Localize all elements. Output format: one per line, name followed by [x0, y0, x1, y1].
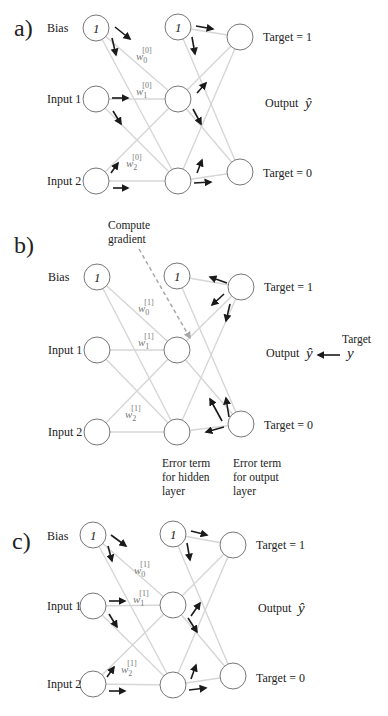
edge-input-hidden — [97, 277, 177, 350]
hidden-node-1 — [160, 592, 186, 618]
bias-unit-glyph: 1 — [90, 528, 97, 543]
row-label: Bias — [48, 270, 70, 284]
flow-arrow-icon — [108, 546, 112, 561]
target-y-symbol: y — [345, 345, 354, 361]
weight-label: w0[1] — [138, 298, 154, 317]
panel-label: c) — [12, 528, 31, 554]
flow-arrow-icon — [111, 535, 126, 546]
panel-label: a) — [14, 15, 33, 41]
bias-unit-glyph: 1 — [170, 527, 177, 542]
neuron-circle — [165, 86, 191, 112]
edge-input-hidden — [93, 606, 173, 685]
neuron-circle — [160, 592, 186, 618]
row-label: Input 1 — [48, 343, 82, 357]
weight-label: w2[1] — [121, 659, 137, 678]
output-label: Output — [266, 346, 300, 360]
neuron-circle — [164, 419, 190, 445]
hidden-node-2 — [165, 168, 191, 194]
backprop-figure: a)11BiasInput 1Input 2w0[0]w1[0]w2[0]Tar… — [0, 0, 388, 716]
input-node-0: 1 — [84, 264, 110, 290]
error-term-label: Error term — [162, 457, 210, 469]
hidden-node-1 — [165, 86, 191, 112]
row-label: Bias — [47, 21, 69, 35]
error-term-label: for output — [233, 471, 279, 484]
weight-label: w0[1] — [134, 560, 150, 579]
output-yhat-symbol: ŷ — [303, 95, 312, 111]
hidden-node-0: 1 — [164, 263, 190, 289]
target-label: Target = 0 — [264, 418, 313, 432]
panel-b: b)Computegradient11BiasInput 1Input 2w0[… — [14, 219, 372, 498]
neuron-circle — [80, 593, 106, 619]
flow-arrow-icon — [192, 37, 195, 54]
panel-c: c)11BiasInput 1Input 2w0[1]w1[1]w2[1]Tar… — [12, 521, 305, 698]
output-yhat-symbol: ŷ — [296, 600, 305, 616]
neuron-circle — [165, 168, 191, 194]
neuron-circle — [83, 168, 109, 194]
row-label: Input 2 — [47, 174, 81, 188]
row-label: Input 1 — [47, 92, 81, 106]
target-label: Target = 1 — [256, 538, 305, 552]
edge-hidden-output — [177, 287, 241, 432]
panel-label: b) — [14, 232, 34, 258]
input-node-0: 1 — [83, 15, 109, 41]
output-node-0 — [220, 532, 246, 558]
input-node-1 — [84, 337, 110, 363]
target-label: Target = 1 — [263, 30, 312, 44]
flow-arrow-icon — [191, 665, 196, 679]
output-node-0 — [228, 274, 254, 300]
error-term-label: layer — [233, 485, 256, 498]
flow-arrow-icon — [210, 399, 222, 421]
flow-arrow-icon — [197, 160, 202, 173]
row-label: Input 2 — [48, 425, 82, 439]
input-node-2 — [84, 419, 110, 445]
compute-gradient-dashed-arrow — [139, 249, 190, 338]
error-term-label: for hidden — [162, 471, 210, 483]
flow-arrow-icon — [194, 182, 211, 183]
flow-arrow-icon — [212, 294, 224, 305]
flow-arrow-icon — [191, 531, 207, 535]
flow-arrow-icon — [196, 26, 213, 29]
row-label: Input 2 — [47, 677, 81, 691]
output-label: Output — [265, 96, 299, 110]
neuron-circle — [84, 419, 110, 445]
weight-label: w1[0] — [136, 81, 152, 100]
edge-input-hidden — [93, 605, 173, 684]
compute-gradient-label: gradient — [108, 233, 146, 246]
neuron-circle — [84, 337, 110, 363]
neuron-circle — [164, 337, 190, 363]
hidden-node-0: 1 — [165, 14, 191, 40]
input-node-1 — [80, 593, 106, 619]
row-label: Bias — [47, 529, 69, 543]
neuron-circle — [220, 663, 246, 689]
bias-unit-glyph: 1 — [175, 20, 182, 35]
flow-arrow-icon — [115, 27, 130, 39]
flow-arrow-icon — [189, 688, 206, 690]
bias-unit-glyph: 1 — [94, 270, 101, 285]
input-node-1 — [83, 86, 109, 112]
input-node-2 — [80, 671, 106, 697]
hidden-node-2 — [164, 419, 190, 445]
target-label: Target = 1 — [264, 280, 313, 294]
flow-arrow-icon — [112, 38, 116, 55]
neuron-circle — [220, 532, 246, 558]
error-term-label: Error term — [233, 457, 281, 469]
weight-label: w1[1] — [138, 332, 154, 351]
neuron-circle — [228, 274, 254, 300]
hidden-node-2 — [160, 672, 186, 698]
flow-arrow-icon — [187, 543, 190, 560]
neuron-circle — [80, 671, 106, 697]
flow-arrow-icon — [191, 603, 200, 616]
weight-label: w2[1] — [125, 404, 141, 423]
neuron-circle — [227, 24, 253, 50]
output-yhat-symbol: ŷ — [304, 345, 313, 361]
neuron-circle — [83, 86, 109, 112]
panel-a: a)11BiasInput 1Input 2w0[0]w1[0]w2[0]Tar… — [14, 14, 312, 194]
output-node-1 — [220, 663, 246, 689]
output-node-1 — [228, 411, 254, 437]
input-node-0: 1 — [80, 522, 106, 548]
hidden-node-1 — [164, 337, 190, 363]
neuron-circle — [228, 411, 254, 437]
input-node-2 — [83, 168, 109, 194]
weight-label: w2[0] — [126, 153, 142, 172]
compute-gradient-label: Compute — [108, 219, 150, 232]
